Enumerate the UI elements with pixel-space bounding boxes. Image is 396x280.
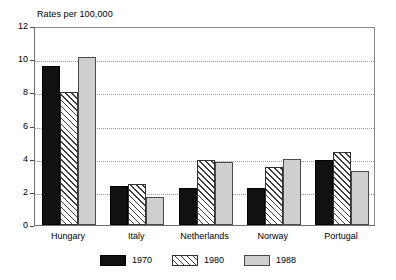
category-label-italy: Italy — [128, 231, 145, 241]
legend-item-1980[interactable]: 1980 — [172, 255, 224, 266]
category-label-hungary: Hungary — [51, 231, 85, 241]
legend-item-1970[interactable]: 1970 — [100, 255, 152, 266]
legend-label-1988: 1988 — [276, 256, 296, 265]
y-axis-label-6: 6 — [4, 122, 28, 131]
y-tick-6 — [30, 127, 34, 128]
category-label-norway: Norway — [257, 231, 288, 241]
bar-italy-1970 — [110, 186, 128, 225]
bar-portugal-1988 — [351, 171, 369, 225]
y-tick-12 — [30, 27, 34, 28]
bar-norway-1980 — [265, 167, 283, 225]
bar-italy-1980 — [128, 184, 146, 225]
y-tick-8 — [30, 93, 34, 94]
legend-label-1970: 1970 — [132, 256, 152, 265]
y-axis-label-0: 0 — [4, 221, 28, 230]
bar-chart: Rates per 100,000 197019801988 024681012… — [0, 0, 396, 280]
y-axis-label-2: 2 — [4, 188, 28, 197]
legend-swatch-1970 — [100, 255, 126, 266]
y-tick-2 — [30, 193, 34, 194]
bar-netherlands-1988 — [215, 162, 233, 225]
y-axis-label-4: 4 — [4, 155, 28, 164]
chart-title: Rates per 100,000 — [37, 9, 113, 19]
bar-hungary-1988 — [78, 57, 96, 225]
y-axis-label-12: 12 — [4, 22, 28, 31]
legend-item-1988[interactable]: 1988 — [244, 255, 296, 266]
plot-inner — [35, 28, 374, 225]
plot-area — [34, 27, 375, 226]
y-tick-4 — [30, 160, 34, 161]
category-label-portugal: Portugal — [324, 231, 358, 241]
legend-label-1980: 1980 — [204, 256, 224, 265]
chart-legend: 197019801988 — [0, 255, 396, 266]
y-tick-10 — [30, 60, 34, 61]
bar-norway-1988 — [283, 159, 301, 225]
bar-netherlands-1970 — [179, 188, 197, 225]
y-tick-0 — [30, 226, 34, 227]
bar-portugal-1970 — [315, 160, 333, 225]
category-label-netherlands: Netherlands — [180, 231, 229, 241]
bar-netherlands-1980 — [197, 160, 215, 225]
legend-swatch-1980 — [172, 255, 198, 266]
bar-hungary-1980 — [60, 92, 78, 225]
y-axis-label-8: 8 — [4, 88, 28, 97]
bar-norway-1970 — [247, 188, 265, 225]
bar-hungary-1970 — [42, 66, 60, 225]
bar-portugal-1980 — [333, 152, 351, 225]
legend-swatch-1988 — [244, 255, 270, 266]
y-axis-label-10: 10 — [4, 55, 28, 64]
bar-italy-1988 — [146, 197, 164, 225]
